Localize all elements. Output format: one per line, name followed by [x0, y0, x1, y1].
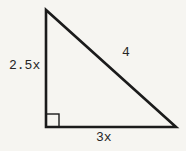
triangle-diagram: 2.5x 4 3x [0, 0, 186, 151]
triangle-outline [46, 10, 176, 127]
hypotenuse-label: 4 [122, 46, 130, 60]
base-side-label: 3x [96, 131, 112, 145]
left-side-label: 2.5x [9, 59, 40, 73]
right-angle-marker [46, 114, 59, 127]
triangle-figure [0, 0, 186, 151]
